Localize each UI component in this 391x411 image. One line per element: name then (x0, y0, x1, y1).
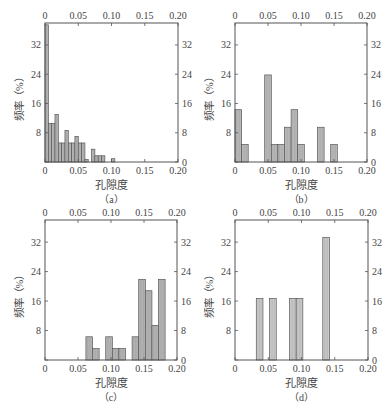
x-tick-label-bottom: 0 (43, 165, 48, 176)
x-tick-label-top: 0 (43, 207, 48, 218)
x-axis-label: 孔隙度 (285, 178, 318, 191)
x-tick-label-top: 0.15 (326, 207, 344, 218)
x-tick-label-bottom: 0.05 (70, 165, 88, 176)
y-tick-label-left: 16 (31, 296, 41, 307)
x-tick-label-bottom: 0.15 (326, 363, 344, 374)
y-tick-label-left: 16 (221, 296, 231, 307)
panel-label: （c） (99, 392, 123, 403)
y-tick-label-right: 0 (181, 355, 186, 366)
y-tick-label-right: 24 (182, 69, 192, 80)
x-tick-label-bottom: 0 (233, 165, 238, 176)
histogram-b: 000.050.050.100.100.150.150.200.20088161… (195, 0, 391, 205)
x-tick-label-top: 0.05 (259, 10, 277, 21)
bars (256, 237, 329, 360)
x-tick-label-top: 0.15 (136, 10, 154, 21)
x-tick-label-top: 0.10 (293, 207, 311, 218)
panel-c: 000.050.050.100.100.150.150.200.20088161… (0, 205, 195, 411)
y-tick-label-left: 24 (221, 266, 231, 277)
x-tick-label-bottom: 0 (233, 363, 238, 374)
y-tick-label-right: 16 (371, 98, 381, 109)
x-tick-label-top: 0.10 (103, 10, 121, 21)
y-tick-label-left: 24 (31, 69, 41, 80)
x-tick-label-bottom: 0.05 (69, 363, 87, 374)
y-tick-label-right: 32 (182, 39, 192, 50)
histogram-a: 000.050.050.100.100.150.150.200.20088161… (0, 0, 195, 205)
x-tick-label-top: 0.20 (169, 10, 187, 21)
y-tick-label-right: 16 (372, 296, 382, 307)
y-tick-label-right: 8 (181, 325, 186, 336)
x-tick-label-bottom: 0.15 (135, 363, 153, 374)
y-tick-label-left: 8 (36, 325, 41, 336)
bars (45, 25, 115, 162)
x-tick-label-bottom: 0.05 (259, 165, 277, 176)
y-tick-label-left: 24 (221, 69, 231, 80)
x-tick-label-top: 0.05 (70, 10, 88, 21)
x-tick-label-top: 0.10 (292, 10, 310, 21)
x-tick-label-bottom: 0.10 (292, 165, 310, 176)
x-tick-label-top: 0.20 (168, 207, 186, 218)
panel-d: 000.050.050.100.100.150.150.200.20088161… (195, 205, 391, 411)
y-tick-label-left: 8 (226, 127, 231, 138)
y-tick-label-left: 8 (226, 325, 231, 336)
x-tick-label-bottom: 0.15 (325, 165, 343, 176)
x-tick-label-bottom: 0.10 (103, 165, 121, 176)
y-tick-label-right: 24 (372, 266, 382, 277)
y-axis-label: 频率（%） (13, 270, 25, 319)
y-tick-label-left: 32 (221, 237, 231, 248)
y-tick-label-right: 24 (371, 69, 381, 80)
bars (86, 279, 165, 360)
x-tick-label-top: 0.20 (358, 10, 376, 21)
plot-frame (235, 23, 367, 162)
x-tick-label-top: 0.05 (69, 207, 87, 218)
y-tick-label-right: 0 (182, 157, 187, 168)
panel-label: （a） (99, 194, 123, 205)
x-tick-label-bottom: 0.10 (102, 363, 120, 374)
y-tick-label-left: 32 (221, 39, 231, 50)
y-tick-label-right: 24 (181, 266, 191, 277)
y-tick-label-right: 0 (372, 355, 377, 366)
y-tick-label-left: 16 (31, 98, 41, 109)
panel-label: （b） (289, 194, 314, 205)
x-axis-label: 孔隙度 (95, 376, 128, 389)
panel-b: 000.050.050.100.100.150.150.200.20088161… (195, 0, 391, 205)
x-tick-label-top: 0 (233, 207, 238, 218)
y-tick-label-right: 8 (371, 127, 376, 138)
y-tick-label-left: 32 (31, 237, 41, 248)
x-tick-label-bottom: 0.05 (260, 363, 278, 374)
y-axis-label: 频率（%） (13, 72, 25, 121)
x-tick-label-top: 0.10 (102, 207, 120, 218)
y-tick-label-left: 16 (221, 98, 231, 109)
x-tick-label-bottom: 0 (43, 363, 48, 374)
y-tick-label-right: 16 (181, 296, 191, 307)
x-tick-label-top: 0.15 (325, 10, 343, 21)
panel-label: （d） (289, 392, 314, 403)
y-tick-label-right: 32 (371, 39, 381, 50)
x-tick-label-top: 0.20 (359, 207, 377, 218)
panel-a: 000.050.050.100.100.150.150.200.20088161… (0, 0, 195, 205)
y-tick-label-right: 32 (372, 237, 382, 248)
x-tick-label-top: 0 (233, 10, 238, 21)
x-tick-label-top: 0 (43, 10, 48, 21)
x-tick-label-bottom: 0.10 (293, 363, 311, 374)
histogram-c: 000.050.050.100.100.150.150.200.20088161… (0, 205, 195, 411)
x-axis-label: 孔隙度 (95, 178, 128, 191)
x-tick-label-bottom: 0.15 (136, 165, 154, 176)
y-tick-label-right: 0 (371, 157, 376, 168)
y-tick-label-left: 32 (31, 39, 41, 50)
y-axis-label: 频率（%） (203, 72, 215, 121)
y-tick-label-right: 32 (181, 237, 191, 248)
histogram-d: 000.050.050.100.100.150.150.200.20088161… (195, 205, 391, 411)
y-axis-label: 频率（%） (203, 270, 215, 319)
bars (235, 75, 337, 162)
x-tick-label-top: 0.15 (135, 207, 153, 218)
y-tick-label-left: 8 (36, 127, 41, 138)
y-tick-label-right: 16 (182, 98, 192, 109)
x-tick-label-top: 0.05 (260, 207, 278, 218)
x-axis-label: 孔隙度 (285, 376, 318, 389)
y-tick-label-right: 8 (372, 325, 377, 336)
y-tick-label-left: 24 (31, 266, 41, 277)
y-tick-label-right: 8 (182, 127, 187, 138)
